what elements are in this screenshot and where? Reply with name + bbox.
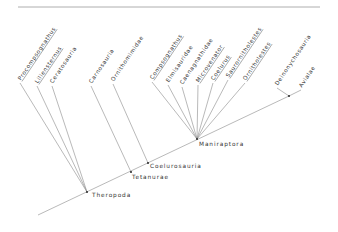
node-marker: [86, 191, 88, 193]
node-marker: [130, 171, 132, 173]
branch-ornitholestes: [197, 83, 245, 139]
taxon-ornithomimidae: Ornithomimidae: [110, 34, 145, 82]
taxon-underline: [247, 44, 272, 81]
taxon-label: Avialae: [298, 65, 317, 89]
branch-elmisauridae: [168, 85, 197, 139]
taxon-labels: ProcompsognathusLiliensternusCeratosauri…: [17, 26, 317, 89]
node-marker: [147, 162, 149, 164]
node-label-theropoda: Theropoda: [91, 192, 131, 199]
branch-ceratosauria: [52, 86, 87, 192]
taxon-compsognathus: Compsognathus: [149, 33, 185, 81]
node-label-maniraptora: Maniraptora: [199, 141, 244, 148]
branch-saurornitholestes: [197, 80, 228, 139]
node-labels: TheropodaTetanuraeCoelurosauriaManirapto…: [86, 95, 290, 199]
branch-ornithomimidae: [113, 84, 148, 163]
node-label-tetanurae: Tetanurae: [131, 174, 169, 180]
backbone-branch: [38, 96, 289, 215]
node-marker: [288, 95, 290, 97]
branch-liliensternus: [37, 86, 87, 192]
taxon-label: Saurornitholestes: [225, 26, 263, 78]
branch-microvenator: [197, 85, 198, 139]
branch-deinonychosauria: [277, 88, 289, 96]
branch-carnosauria: [91, 86, 131, 172]
taxon-avialae: Avialae: [298, 65, 317, 89]
cladogram: ProcompsognathusLiliensternusCeratosauri…: [0, 0, 338, 232]
branch-procompsognathus: [20, 83, 87, 192]
taxon-label: Compsognathus: [149, 33, 185, 81]
branch-compsognathus: [152, 82, 197, 139]
taxon-label: Ornithomimidae: [110, 34, 145, 82]
node-label-coelurosauria: Coelurosauria: [150, 163, 202, 169]
branch-coelurus: [197, 83, 213, 139]
node-marker: [196, 138, 198, 140]
branch-avialae: [289, 90, 301, 96]
taxon-saurornitholestes: Saurornitholestes: [225, 26, 263, 79]
branch-caenagnathidae: [182, 87, 197, 139]
